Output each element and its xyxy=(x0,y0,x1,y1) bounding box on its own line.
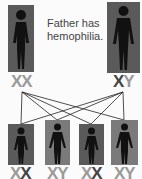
child-2-figure xyxy=(45,120,70,165)
child-1-genotype: XX xyxy=(10,165,31,179)
male-silhouette-icon xyxy=(45,120,70,165)
allele: Y xyxy=(123,72,133,91)
child-2-genotype: XY xyxy=(47,165,68,179)
allele: X xyxy=(11,72,21,91)
mother-figure xyxy=(8,5,34,72)
allele-affected: X xyxy=(113,72,123,91)
female-silhouette-icon xyxy=(79,124,104,165)
child-3-figure xyxy=(79,124,104,165)
allele: X xyxy=(81,164,91,179)
caption-line-2: hemophilia. xyxy=(47,30,103,43)
father-genotype: XY xyxy=(113,73,134,90)
allele: X xyxy=(47,164,57,179)
allele: X xyxy=(21,72,31,91)
male-silhouette-icon xyxy=(111,120,138,165)
allele-affected: X xyxy=(91,164,101,179)
child-3-genotype: XX xyxy=(81,165,102,179)
child-4-figure xyxy=(111,120,138,165)
caption-line-1: Father has xyxy=(47,17,103,30)
female-silhouette-icon xyxy=(8,124,34,165)
allele: X xyxy=(10,164,20,179)
male-silhouette-icon xyxy=(107,2,140,73)
female-silhouette-icon xyxy=(8,5,34,72)
allele: Y xyxy=(124,164,134,179)
mother-genotype: XX xyxy=(11,73,32,90)
child-1-figure xyxy=(8,124,34,165)
allele-affected: X xyxy=(20,164,30,179)
caption: Father has hemophilia. xyxy=(47,17,103,43)
child-4-genotype: XY xyxy=(114,165,135,179)
allele: X xyxy=(114,164,124,179)
father-figure xyxy=(107,2,140,73)
allele: Y xyxy=(57,164,67,179)
